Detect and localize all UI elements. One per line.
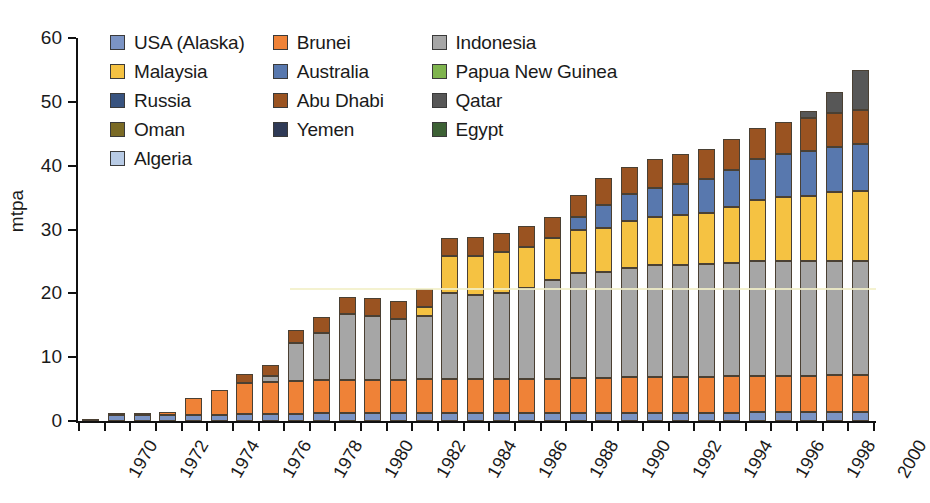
bar-segment-brunei — [159, 412, 176, 415]
bar-segment-brunei — [390, 380, 407, 414]
bar-1983[interactable] — [416, 305, 433, 421]
bar-1974[interactable] — [185, 398, 202, 421]
bar-segment-abu-dhabi — [441, 238, 458, 256]
bar-segment-malaysia — [852, 191, 869, 262]
x-tick — [822, 423, 824, 431]
bar-segment-qatar — [852, 70, 869, 110]
bar-1998[interactable] — [800, 115, 817, 421]
bar-series-area — [76, 38, 876, 421]
x-tick — [155, 423, 157, 431]
bar-segment-indonesia — [390, 319, 407, 380]
bar-segment-brunei — [262, 382, 279, 414]
bar-segment-indonesia — [698, 264, 715, 377]
bar-segment-abu-dhabi — [672, 154, 689, 183]
y-tick — [68, 165, 76, 167]
bar-1978[interactable] — [288, 348, 305, 421]
bar-1993[interactable] — [672, 163, 689, 421]
bar-segment-indonesia — [672, 265, 689, 377]
bar-1975[interactable] — [211, 390, 228, 421]
bar-1981[interactable] — [364, 316, 381, 421]
bar-segment-indonesia — [800, 261, 817, 375]
y-tick — [68, 229, 76, 231]
bar-segment-malaysia — [775, 197, 792, 261]
x-tick — [129, 423, 131, 431]
x-tick-label: 1974 — [227, 437, 263, 481]
x-tick — [104, 423, 106, 431]
bar-1991[interactable] — [621, 178, 638, 421]
bar-1977[interactable] — [262, 369, 279, 421]
bar-segment-abu-dhabi — [621, 167, 638, 194]
bar-segment-brunei — [775, 376, 792, 412]
bar-1976[interactable] — [236, 383, 253, 421]
x-tick — [488, 423, 490, 431]
bar-segment-abu-dhabi — [288, 330, 305, 343]
bar-segment-malaysia — [416, 307, 433, 317]
bar-segment-usa-alaska- — [749, 412, 766, 421]
bar-segment-usa-alaska- — [852, 412, 869, 421]
bar-1988[interactable] — [544, 225, 561, 421]
bar-segment-abu-dhabi — [262, 365, 279, 375]
bar-segment-usa-alaska- — [390, 413, 407, 421]
bar-segment-malaysia — [723, 207, 740, 263]
bar-segment-usa-alaska- — [672, 413, 689, 421]
bar-segment-malaysia — [493, 252, 510, 293]
x-tick — [565, 423, 567, 431]
bar-segment-indonesia — [647, 265, 664, 377]
bar-segment-brunei — [749, 376, 766, 412]
bar-segment-abu-dhabi — [570, 195, 587, 217]
x-tick — [283, 423, 285, 431]
y-tick-label: 50 — [28, 92, 62, 111]
x-tick-label: 1980 — [381, 437, 417, 481]
bar-1987[interactable] — [518, 234, 535, 421]
bar-1973[interactable] — [159, 412, 176, 421]
bar-segment-malaysia — [595, 228, 612, 273]
bar-segment-australia — [800, 151, 817, 196]
y-tick-label: 30 — [28, 220, 62, 239]
bar-1997[interactable] — [775, 122, 792, 421]
bar-1986[interactable] — [493, 240, 510, 421]
x-tick — [206, 423, 208, 431]
bar-1989[interactable] — [570, 210, 587, 421]
y-axis-title: mtpa — [6, 190, 28, 232]
x-tick-label: 1972 — [176, 437, 212, 481]
y-axis-labels: 0102030405060 — [18, 0, 62, 503]
x-tick — [463, 423, 465, 431]
bar-2000[interactable] — [852, 76, 869, 421]
bar-segment-abu-dhabi — [647, 159, 664, 188]
bar-1999[interactable] — [826, 106, 843, 421]
bar-segment-abu-dhabi — [390, 301, 407, 319]
y-tick-label: 60 — [28, 28, 62, 47]
bar-segment-abu-dhabi — [544, 217, 561, 238]
bar-1985[interactable] — [467, 245, 484, 421]
y-tick — [68, 101, 76, 103]
bar-segment-usa-alaska- — [698, 413, 715, 421]
bar-segment-australia — [749, 159, 766, 199]
bar-segment-usa-alaska- — [493, 413, 510, 421]
bar-1995[interactable] — [723, 148, 740, 421]
bar-1996[interactable] — [749, 138, 766, 421]
bar-segment-australia — [723, 170, 740, 208]
bar-segment-abu-dhabi — [749, 128, 766, 159]
bar-segment-abu-dhabi — [416, 289, 433, 307]
bar-1980[interactable] — [339, 315, 356, 421]
x-tick — [181, 423, 183, 431]
bar-1982[interactable] — [390, 316, 407, 421]
x-tick-label: 1992 — [689, 437, 725, 481]
bar-segment-usa-alaska- — [544, 413, 561, 421]
bar-segment-malaysia — [647, 217, 664, 265]
bar-segment-abu-dhabi — [595, 178, 612, 205]
y-tick-label: 40 — [28, 156, 62, 175]
bar-segment-abu-dhabi — [467, 237, 484, 256]
bar-segment-brunei — [698, 377, 715, 413]
bar-1979[interactable] — [313, 332, 330, 421]
bar-segment-usa-alaska- — [441, 413, 458, 421]
bar-segment-usa-alaska- — [416, 413, 433, 421]
bar-1984[interactable] — [441, 249, 458, 421]
bar-1990[interactable] — [595, 190, 612, 421]
y-tick-label: 0 — [28, 411, 62, 430]
bar-segment-brunei — [570, 378, 587, 413]
bar-segment-abu-dhabi — [518, 226, 535, 246]
bar-segment-australia — [647, 188, 664, 217]
bar-segment-indonesia — [339, 314, 356, 379]
bar-1992[interactable] — [647, 172, 664, 421]
